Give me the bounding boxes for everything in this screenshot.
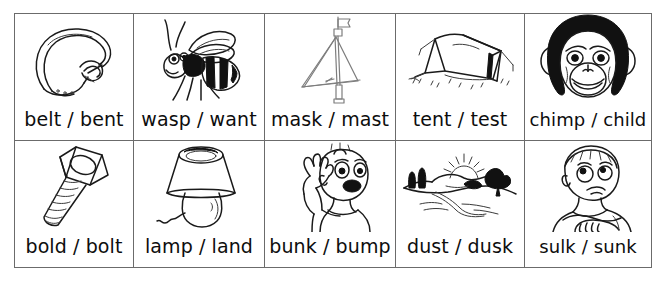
grid-cell-chimp[interactable]: chimp / child — [525, 14, 651, 140]
tent-icon — [401, 17, 519, 101]
grid-cell-lamp[interactable]: lamp / land — [134, 141, 265, 267]
tent-illustration — [396, 14, 524, 102]
grid-cell-bump[interactable]: bunk / bump — [265, 141, 396, 267]
cell-label: wasp / want — [134, 102, 264, 140]
grid-cell-sulk[interactable]: sulk / sunk — [525, 141, 651, 267]
grid-cell-bolt[interactable]: bold / bolt — [15, 141, 134, 267]
sulk-icon — [535, 141, 641, 232]
belt-illustration — [15, 14, 133, 102]
grid-cell-belt[interactable]: belt / bent — [15, 14, 134, 140]
lamp-icon — [147, 141, 251, 231]
cell-label: belt / bent — [15, 102, 133, 140]
cell-label: bunk / bump — [265, 229, 395, 267]
bump-illustration — [265, 141, 395, 229]
grid-cell-wasp[interactable]: wasp / want — [134, 14, 265, 140]
cell-label: lamp / land — [134, 229, 264, 267]
wasp-illustration — [134, 14, 264, 102]
grid-cell-tent[interactable]: tent / test — [396, 14, 525, 140]
cell-label: tent / test — [396, 102, 524, 140]
grid-row-top: belt / bent — [15, 14, 651, 141]
dusk-illustration — [396, 141, 524, 229]
bump-icon — [274, 141, 386, 232]
cell-label: sulk / sunk — [525, 229, 651, 267]
picture-word-grid: belt / bent — [14, 13, 652, 268]
dusk-icon — [402, 148, 518, 224]
grid-row-bottom: bold / bolt — [15, 141, 651, 267]
bolt-icon — [26, 141, 122, 231]
cell-label: dust / dusk — [396, 229, 524, 267]
sulk-illustration — [525, 141, 651, 229]
cell-label: mask / mast — [265, 102, 395, 140]
cell-label: bold / bolt — [15, 229, 133, 267]
chimp-illustration — [525, 14, 651, 102]
cell-label: chimp / child — [525, 102, 651, 140]
chimp-icon — [536, 14, 640, 105]
mast-icon — [282, 14, 378, 105]
bolt-illustration — [15, 141, 133, 229]
mast-illustration — [265, 14, 395, 102]
grid-cell-mast[interactable]: mask / mast — [265, 14, 396, 140]
grid-cell-dusk[interactable]: dust / dusk — [396, 141, 525, 267]
belt-icon — [22, 15, 126, 103]
lamp-illustration — [134, 141, 264, 229]
wasp-icon — [143, 14, 255, 104]
